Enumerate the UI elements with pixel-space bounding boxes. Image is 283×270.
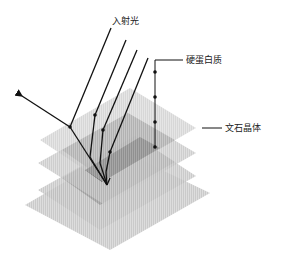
reflected-ray-arrow <box>22 96 70 127</box>
label-incident-light: 入射光 <box>112 15 139 26</box>
label-protein: 硬蛋白质 <box>186 54 222 65</box>
label-aragonite: 文石晶体 <box>225 122 261 133</box>
nacre-light-diagram: 入射光 硬蛋白质 文石晶体 <box>0 0 283 270</box>
